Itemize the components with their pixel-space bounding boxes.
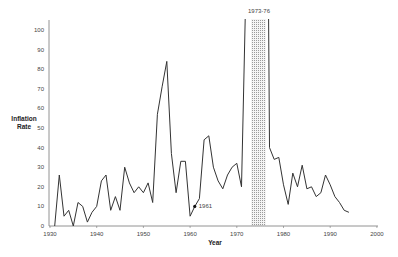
y-tick-label: 90 [37,47,44,53]
x-tick-label: 1930 [43,231,57,237]
y-tick-label: 100 [34,27,45,33]
y-tick-label: 10 [37,203,44,209]
y-tick-label: 70 [37,86,44,92]
y-axis-label-line1: Inflation [11,115,36,122]
x-tick-label: 1940 [90,231,104,237]
y-axis-ticks: 0102030405060708090100 [34,27,45,229]
y-tick-label: 30 [37,164,44,170]
y-tick-label: 80 [37,66,44,72]
x-tick-label: 1970 [230,231,244,237]
y-axis-label-line2: Rate [17,123,31,130]
x-tick-label: 1960 [183,231,197,237]
hyperinflation-band [251,19,266,226]
x-tick-label: 2000 [370,231,384,237]
x-tick-label: 1980 [277,231,291,237]
y-tick-label: 40 [37,145,44,151]
x-tick-label: 1990 [324,231,338,237]
y-tick-label: 20 [37,184,44,190]
x-tick-label: 1950 [137,231,151,237]
y-tick-label: 60 [37,105,44,111]
inflation-chart: 0102030405060708090100 19301940195019601… [0,0,398,257]
inflation-line [55,19,349,226]
band-label: 1973-76 [248,8,271,14]
point-marker-1961 [193,205,196,208]
y-tick-label: 50 [37,125,44,131]
y-tick-label: 0 [41,223,45,229]
shaded-band-1973-76 [251,19,266,226]
x-axis-ticks: 19301940195019601970198019902000 [43,226,384,237]
x-axis-label: Year [208,239,222,246]
point-label-1961: 1961 [199,203,213,209]
